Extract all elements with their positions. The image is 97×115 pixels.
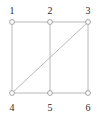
graph-node-2[interactable] bbox=[48, 20, 53, 25]
graph-node-6[interactable] bbox=[86, 91, 91, 96]
graph-node-4[interactable] bbox=[10, 91, 15, 96]
graph-node-1[interactable] bbox=[10, 20, 15, 25]
graph-node-5[interactable] bbox=[48, 91, 53, 96]
graph-node-label-3: 3 bbox=[86, 5, 91, 16]
graph-node-label-5: 5 bbox=[48, 102, 53, 113]
graph-figure: 123456 bbox=[0, 0, 97, 115]
edge-layer bbox=[12, 22, 88, 93]
graph-node-label-2: 2 bbox=[48, 5, 53, 16]
graph-node-3[interactable] bbox=[86, 20, 91, 25]
graph-node-label-1: 1 bbox=[10, 5, 15, 16]
graph-canvas: 123456 bbox=[0, 0, 97, 115]
graph-node-label-4: 4 bbox=[10, 102, 15, 113]
graph-node-label-6: 6 bbox=[86, 102, 91, 113]
